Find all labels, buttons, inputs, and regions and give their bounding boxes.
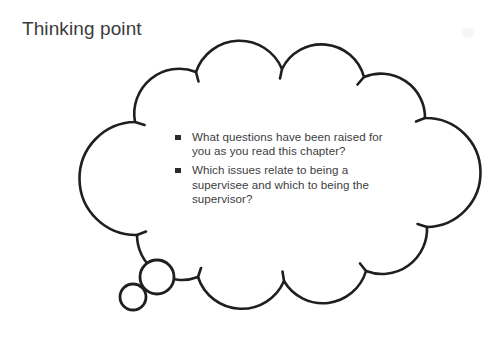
square-bullet-icon (175, 168, 181, 174)
large-tail-bubble (140, 260, 174, 294)
list-item-label: Which issues relate to being a supervise… (192, 163, 404, 206)
list-item: What questions have been raised for you … (172, 130, 404, 158)
list-item-label: What questions have been raised for you … (192, 130, 404, 158)
thought-tail (120, 260, 174, 310)
small-tail-bubble (120, 284, 146, 310)
bubble-text-block: What questions have been raised for you … (172, 130, 404, 206)
figure-canvas: Thinking point (0, 0, 493, 338)
list-item: Which issues relate to being a supervise… (172, 163, 404, 206)
square-bullet-icon (175, 135, 181, 141)
